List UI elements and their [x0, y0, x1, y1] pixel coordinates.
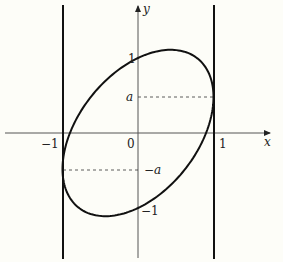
tick-y-neg-a: −a [144, 163, 161, 177]
tick-y-a: a [126, 90, 133, 104]
tick-y-pos-one: 1 [128, 52, 136, 66]
tick-x-neg-one: −1 [41, 137, 59, 151]
tick-x-pos-one: 1 [219, 137, 227, 151]
tick-y-neg-one: −1 [141, 204, 159, 218]
diagram: y x 0 −1 1 1 −1 a −a [0, 0, 283, 262]
y-axis-label: y [142, 2, 150, 16]
x-axis-label: x [264, 135, 271, 149]
origin-label: 0 [127, 137, 135, 151]
